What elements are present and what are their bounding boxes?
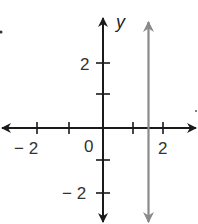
x-tick-label-2: 2 (158, 139, 167, 158)
origin-label: 0 (84, 137, 93, 156)
cropped-x-label (195, 110, 197, 112)
x-tick-label-neg2: − 2 (14, 139, 38, 158)
coordinate-plane: y 2 − 2 − 2 0 2 (0, 0, 198, 224)
y-tick-label-neg2: − 2 (62, 184, 86, 203)
cropped-marker (0, 31, 3, 34)
y-tick-label-2: 2 (80, 55, 89, 74)
y-axis-label: y (114, 12, 126, 32)
